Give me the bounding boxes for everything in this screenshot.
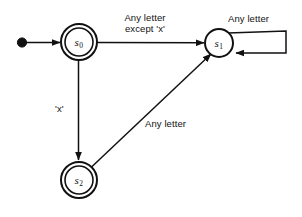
transition-s1-self-loop-path <box>228 31 286 53</box>
state-s0-subscript: 0 <box>79 41 83 50</box>
edge-label-s0-to-s2: 'x' <box>55 104 64 115</box>
transition-s2-to-s1 <box>91 54 211 168</box>
edge-label-s1-self-loop: Any letter <box>228 14 269 25</box>
state-machine-diagram: s0 s1 s2 Any letterexcept 'x' Any letter… <box>0 0 302 217</box>
edge-label-s0-to-s1-line1: Any letter <box>124 12 165 23</box>
transition-s1-self-loop <box>228 31 286 53</box>
edge-label-s0-to-s2-text: 'x' <box>55 103 64 114</box>
state-s1[interactable]: s1 <box>205 29 233 57</box>
start-arrow <box>17 38 60 47</box>
edge-label-s0-to-s1: Any letterexcept 'x' <box>106 13 184 34</box>
edge-label-s1-self-loop-text: Any letter <box>228 13 269 24</box>
state-s2-subscript: 2 <box>79 179 83 188</box>
edge-label-s2-to-s1: Any letter <box>145 119 186 130</box>
edge-label-s2-to-s1-text: Any letter <box>145 118 186 129</box>
edge-label-s0-to-s1-line2: except 'x' <box>125 23 165 34</box>
state-s1-subscript: 1 <box>219 42 223 51</box>
state-s2[interactable]: s2 <box>61 162 97 198</box>
transition-s2-to-s1-line <box>91 54 211 168</box>
state-s0[interactable]: s0 <box>61 24 97 60</box>
